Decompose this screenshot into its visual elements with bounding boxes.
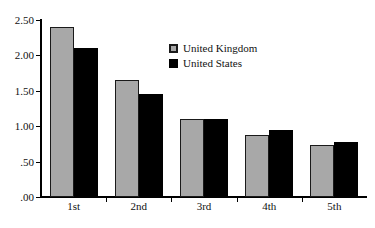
x-tick-mark (171, 197, 172, 202)
x-tick-mark (302, 197, 303, 202)
bar-2nd-united-states (139, 94, 163, 197)
y-tick-mark (36, 197, 41, 198)
y-tick-label: 1.00 (15, 121, 34, 132)
x-tick-label-3rd: 3rd (197, 201, 212, 212)
legend-item-united-states: United States (169, 56, 257, 70)
x-tick-label-2nd: 2nd (131, 201, 148, 212)
bar-5th-united-states (334, 142, 358, 197)
x-tick-mark (237, 197, 238, 202)
y-tick-label: 1.50 (15, 85, 34, 96)
x-tick-label-4th: 4th (262, 201, 276, 212)
x-tick-label-5th: 5th (327, 201, 341, 212)
y-tick-mark (36, 91, 41, 92)
y-tick-mark (36, 126, 41, 127)
y-tick-mark (36, 55, 41, 56)
bar-3rd-united-states (204, 119, 228, 197)
y-tick-mark (36, 162, 41, 163)
bar-1st-united-kingdom (50, 27, 74, 197)
x-tick-label-1st: 1st (67, 201, 80, 212)
y-tick-label: .00 (20, 192, 34, 203)
y-tick-label: .50 (20, 156, 34, 167)
bar-1st-united-states (74, 48, 98, 197)
chart-legend: United Kingdom United States (169, 41, 257, 71)
bar-3rd-united-kingdom (180, 119, 204, 197)
legend-item-united-kingdom: United Kingdom (169, 41, 257, 55)
legend-label-united-states: United States (183, 58, 242, 69)
y-tick-mark (36, 20, 41, 21)
bar-5th-united-kingdom (310, 145, 334, 197)
bar-4th-united-states (269, 130, 293, 197)
bar-2nd-united-kingdom (115, 80, 139, 197)
legend-swatch-icon-united-states (169, 59, 178, 68)
bar-4th-united-kingdom (245, 135, 269, 197)
x-tick-mark (106, 197, 107, 202)
y-tick-label: 2.50 (15, 15, 34, 26)
y-tick-label: 2.00 (15, 50, 34, 61)
legend-swatch-icon-united-kingdom (169, 44, 178, 53)
bar-chart: .00.501.001.502.002.50 1st2nd3rd4th5th U… (0, 0, 375, 228)
legend-label-united-kingdom: United Kingdom (183, 43, 257, 54)
